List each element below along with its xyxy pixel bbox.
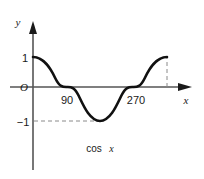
x-tick-label-270: 270 [127,94,145,106]
figure-caption: cos x [86,138,114,155]
y-axis-label: y [15,16,21,28]
x-axis-arrowhead [178,83,192,91]
y-tick-label-minus-one: −1 [17,116,30,128]
caption-function-name: cos [86,143,102,154]
x-axis-label: x [183,94,189,106]
y-axis-arrowhead [29,21,37,34]
caption-variable-name: x [108,143,114,154]
x-tick-label-90: 90 [61,94,73,106]
cosine-graph-figure: y x O 1 −1 90 270 cos x [0,0,204,179]
cosine-curve [33,57,167,121]
plot-area: y x O 1 −1 90 270 cos x [0,0,204,179]
y-tick-label-one: 1 [22,52,28,64]
origin-label: O [20,81,28,93]
